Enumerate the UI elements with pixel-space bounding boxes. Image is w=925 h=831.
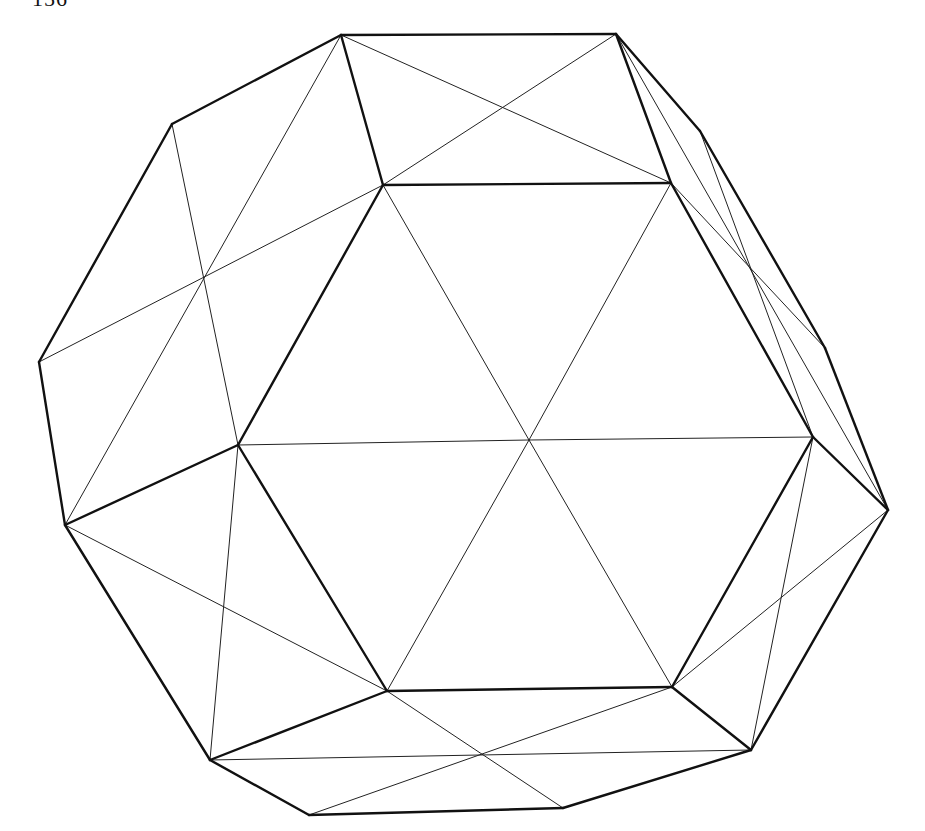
- edge-O2-O3: [39, 362, 65, 525]
- thin-edges: [39, 34, 888, 815]
- edge-O3-B1: [65, 525, 210, 760]
- edge-HR-HBR: [672, 437, 813, 687]
- edge-O1-HL: [172, 124, 238, 445]
- edge-HR-B5: [751, 437, 813, 750]
- edge-R1-HR: [700, 131, 813, 437]
- edge-B3-B4: [309, 808, 563, 815]
- edge-C-HBR: [529, 440, 672, 687]
- edge-HTL-HTR: [383, 183, 671, 185]
- edge-R4-R1: [700, 131, 825, 348]
- edge-B5-HBR: [672, 687, 751, 750]
- edge-O2-HTL: [39, 185, 383, 362]
- edge-C-HR: [529, 437, 813, 440]
- edge-B5-R5: [751, 510, 888, 750]
- edge-HBL-B4: [387, 691, 563, 808]
- edge-T2-HTL: [383, 34, 616, 185]
- edge-R5-HR: [813, 437, 888, 510]
- edge-B1-HBL: [210, 691, 387, 760]
- edge-O3-HL: [65, 445, 238, 525]
- edge-O3-HBL: [65, 525, 387, 691]
- edge-HBL-HL: [238, 445, 387, 691]
- edge-T1-T2: [341, 34, 616, 35]
- edge-B3-HBR: [309, 687, 672, 815]
- edge-HL-HTL: [238, 185, 383, 445]
- edge-T1-HTR: [341, 35, 671, 183]
- thick-edges: [39, 34, 888, 815]
- edge-T1-HTL: [341, 35, 383, 185]
- edge-C-HTL: [383, 185, 529, 440]
- edge-HBR-HBL: [387, 687, 672, 691]
- edge-B1-B3: [210, 760, 309, 815]
- edge-B4-B5: [563, 750, 751, 808]
- edge-C-HTR: [529, 183, 671, 440]
- polyhedron-diagram: [0, 0, 925, 831]
- edge-O1-O2: [39, 124, 172, 362]
- edge-R5-R4: [825, 348, 888, 510]
- edge-T2-HTR: [616, 34, 671, 183]
- edge-HBR-R5: [672, 510, 888, 687]
- edge-HTR-HR: [671, 183, 813, 437]
- edge-HTR-R4: [671, 183, 825, 348]
- edge-C-HL: [238, 440, 529, 445]
- edge-R1-T2: [616, 34, 700, 131]
- edge-HL-B1: [210, 445, 238, 760]
- edge-C-HBL: [387, 440, 529, 691]
